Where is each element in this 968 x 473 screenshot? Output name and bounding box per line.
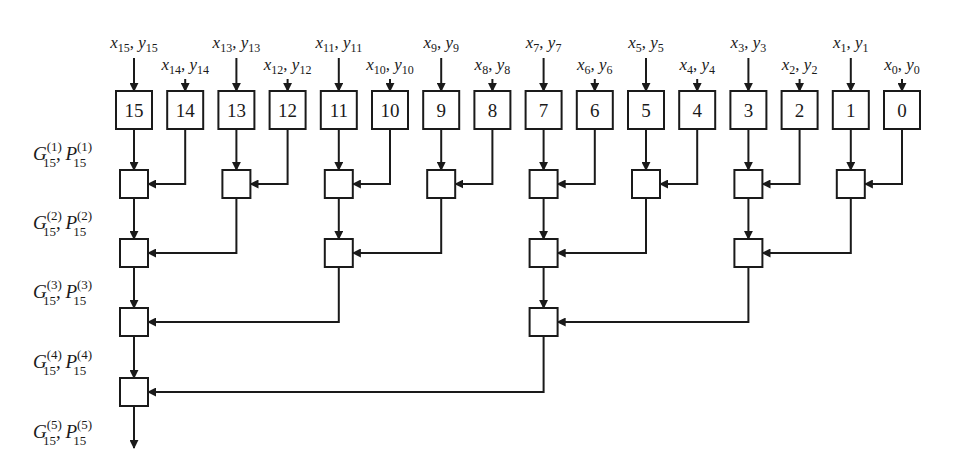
wire-combine <box>148 267 339 322</box>
box-label: 13 <box>227 100 246 121</box>
input-label-5: x5, y5 <box>627 33 664 55</box>
prefix-node-L1-5 <box>632 170 660 198</box>
prefix-node-L2-15 <box>120 239 148 267</box>
prefix-node-L3-7 <box>530 308 558 336</box>
prefix-node-L2-3 <box>734 239 762 267</box>
prefix-node-L1-1 <box>837 170 865 198</box>
wire-combine <box>250 129 287 184</box>
box-label: 1 <box>846 100 856 121</box>
prefix-node-L2-7 <box>530 239 558 267</box>
box-label: 9 <box>436 100 446 121</box>
prefix-node-L3-15 <box>120 308 148 336</box>
input-label-13: x13, y13 <box>212 33 261 55</box>
wire-combine <box>148 198 236 253</box>
input-label-12: x12, y12 <box>263 55 312 77</box>
input-box-6: 6 <box>577 91 613 129</box>
wire-combine <box>558 198 646 253</box>
box-label: 10 <box>381 100 400 121</box>
box-label: 14 <box>176 100 196 121</box>
input-box-0: 0 <box>884 91 920 129</box>
input-box-1: 1 <box>833 91 869 129</box>
wire-combine <box>455 129 492 184</box>
prefix-nodes <box>120 170 865 406</box>
side-label-level-2: G(2)15, P(2)15 <box>33 208 92 239</box>
input-label-14: x14, y14 <box>160 55 209 77</box>
wire-combine <box>660 129 697 184</box>
wire-combine <box>148 336 544 392</box>
wire-combine <box>762 198 850 253</box>
input-label-2: x2, y2 <box>781 55 818 77</box>
input-label-15: x15, y15 <box>109 33 158 55</box>
side-label-level-1: G(1)15, P(1)15 <box>33 139 92 170</box>
input-label-0: x0, y0 <box>883 55 920 77</box>
input-box-8: 8 <box>474 91 510 129</box>
input-box-2: 2 <box>782 91 818 129</box>
box-label: 5 <box>641 100 651 121</box>
input-box-12: 12 <box>270 91 306 129</box>
prefix-node-L1-9 <box>427 170 455 198</box>
prefix-node-L1-13 <box>222 170 250 198</box>
input-box-9: 9 <box>423 91 459 129</box>
side-labels: G(1)15, P(1)15G(2)15, P(2)15G(3)15, P(3)… <box>33 139 92 448</box>
prefix-node-L1-7 <box>530 170 558 198</box>
prefix-adder-diagram: x15, y15x14, y14x13, y13x12, y12x11, y11… <box>0 0 968 473</box>
prefix-node-L1-15 <box>120 170 148 198</box>
input-box-4: 4 <box>679 91 715 129</box>
input-box-5: 5 <box>628 91 664 129</box>
input-box-3: 3 <box>730 91 766 129</box>
input-label-6: x6, y6 <box>576 55 613 77</box>
input-box-10: 10 <box>372 91 408 129</box>
input-box-15: 15 <box>116 91 152 129</box>
input-box-7: 7 <box>526 91 562 129</box>
input-label-3: x3, y3 <box>730 33 767 55</box>
input-label-1: x1, y1 <box>832 33 869 55</box>
input-box-11: 11 <box>321 91 357 129</box>
wire-combine <box>353 129 390 184</box>
input-label-8: x8, y8 <box>474 55 511 77</box>
wire-combine <box>558 267 749 322</box>
box-label: 0 <box>897 100 907 121</box>
prefix-node-L2-11 <box>325 239 353 267</box>
input-label-7: x7, y7 <box>525 33 562 55</box>
input-label-9: x9, y9 <box>422 33 459 55</box>
input-label-4: x4, y4 <box>678 55 715 77</box>
side-label-level-3: G(3)15, P(3)15 <box>33 277 92 308</box>
wire-combine <box>762 129 799 184</box>
box-label: 2 <box>795 100 805 121</box>
wire-combine <box>148 129 185 184</box>
input-label-11: x11, y11 <box>314 33 362 55</box>
input-label-10: x10, y10 <box>365 55 414 77</box>
wire-combine <box>558 129 595 184</box>
input-box-14: 14 <box>167 91 203 129</box>
prefix-node-L1-3 <box>734 170 762 198</box>
box-label: 6 <box>590 100 600 121</box>
input-boxes: 1514131211109876543210 <box>116 91 920 129</box>
prefix-node-L1-11 <box>325 170 353 198</box>
side-label-level-4: G(4)15, P(4)15 <box>33 347 92 378</box>
wire-combine <box>353 198 441 253</box>
box-label: 12 <box>278 100 297 121</box>
prefix-node-L4-15 <box>120 378 148 406</box>
box-label: 15 <box>125 100 144 121</box>
box-label: 3 <box>744 100 754 121</box>
diagram-svg: x15, y15x14, y14x13, y13x12, y12x11, y11… <box>0 0 968 473</box>
box-label: 11 <box>330 100 348 121</box>
wire-combine <box>865 129 902 184</box>
side-label-level-5: G(5)15, P(5)15 <box>33 417 92 448</box>
box-label: 7 <box>539 100 549 121</box>
box-label: 8 <box>488 100 498 121</box>
input-box-13: 13 <box>218 91 254 129</box>
input-labels: x15, y15x14, y14x13, y13x12, y12x11, y11… <box>109 33 920 91</box>
box-label: 4 <box>692 100 702 121</box>
